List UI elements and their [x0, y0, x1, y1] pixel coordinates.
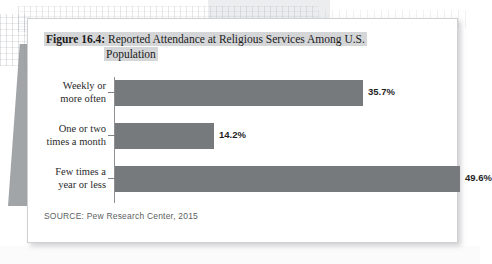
category-label-monthly: One or two times a month	[28, 123, 106, 148]
bar-weekly	[115, 80, 363, 106]
figure-title: Figure 16.4: Reported Attendance at Reli…	[44, 32, 374, 62]
figure-card: Figure 16.4: Reported Attendance at Reli…	[27, 18, 458, 243]
bar-value-monthly: 14.2%	[219, 129, 246, 140]
figure-source: SOURCE: Pew Research Center, 2015	[44, 211, 198, 221]
category-label-weekly: Weekly or more often	[28, 80, 106, 105]
bar-value-weekly: 35.7%	[368, 86, 395, 97]
category-label-line: One or two	[28, 123, 106, 136]
figure-title-text-1: Reported Attendance at Religious Service…	[108, 33, 365, 45]
axis-tick	[108, 178, 115, 179]
axis-tick	[108, 135, 115, 136]
category-label-yearly: Few times a year or less	[28, 166, 106, 191]
figure-title-line-2: Population	[44, 47, 374, 62]
chart-row: Weekly or more often 35.7%	[28, 77, 459, 117]
figure-title-line-1: Figure 16.4: Reported Attendance at Reli…	[44, 32, 374, 47]
background-bottom-tint	[0, 246, 480, 264]
axis-tick	[108, 92, 115, 93]
bar-value-yearly: 49.6%	[465, 172, 492, 183]
category-label-line: Few times a	[28, 166, 106, 179]
figure-number-label: Figure 16.4:	[46, 33, 105, 45]
category-label-line: year or less	[28, 179, 106, 192]
category-label-line: times a month	[28, 136, 106, 149]
category-label-line: more often	[28, 93, 106, 106]
bar-monthly	[115, 123, 214, 149]
chart-row: One or two times a month 14.2%	[28, 120, 459, 160]
figure-title-text-2: Population	[104, 47, 158, 61]
bar-chart: Weekly or more often 35.7% One or two ti…	[28, 75, 459, 205]
bar-yearly	[115, 166, 460, 192]
category-label-line: Weekly or	[28, 80, 106, 93]
chart-row: Few times a year or less 49.6%	[28, 163, 459, 203]
